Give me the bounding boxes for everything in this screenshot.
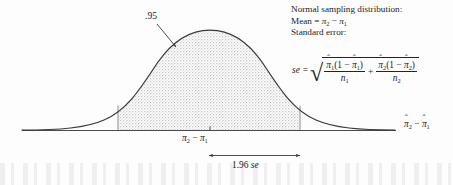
standard-error-formula: se = √ ˆπ1(1 − ˆπ1) n1 + ˆπ2(1 − ˆπ2) xyxy=(292,57,419,84)
se-term-2-denominator: n2 xyxy=(376,71,417,84)
formula-plus: + xyxy=(368,67,373,77)
radical: √ ˆπ1(1 − ˆπ1) n1 + ˆπ2(1 − ˆπ2) xyxy=(310,57,419,84)
margin-unit: se xyxy=(251,160,259,170)
confidence-level-label: .95 xyxy=(145,10,157,21)
margin-of-error-label: 1.96 se xyxy=(232,160,259,170)
se-term-1-numerator: ˆπ1(1 − ˆπ1) xyxy=(324,60,365,72)
figure-page: .95 π2 − π1 1.96 se ˆπ2 − ˆπ1 Normal sam… xyxy=(0,0,453,185)
caption-block: Normal sampling distribution: Mean = π2 … xyxy=(291,4,453,39)
radicand: ˆπ1(1 − ˆπ1) n1 + ˆπ2(1 − ˆπ2) n2 xyxy=(322,57,419,84)
caption-line-title: Normal sampling distribution: xyxy=(291,4,453,16)
se-term-2: ˆπ2(1 − ˆπ2) n2 xyxy=(376,60,417,84)
confidence-leader-line xyxy=(157,24,176,47)
formula-equals: = xyxy=(303,65,308,75)
caption-line-mean: Mean = π2 − π1 xyxy=(291,16,453,28)
se-term-1: ˆπ1(1 − ˆπ1) n1 xyxy=(324,60,365,84)
mean-axis-label: π2 − π1 xyxy=(182,133,208,143)
caption-line-se: Standard error: xyxy=(291,27,453,39)
se-term-2-numerator: ˆπ2(1 − ˆπ2) xyxy=(376,60,417,72)
caption-mean-prefix: Mean = xyxy=(291,16,322,26)
x-axis-variable-label: ˆπ2 − ˆπ1 xyxy=(404,119,430,129)
se-term-1-denominator: n1 xyxy=(324,71,365,84)
formula-lhs: se xyxy=(292,65,300,75)
margin-value: 1.96 xyxy=(232,160,248,170)
